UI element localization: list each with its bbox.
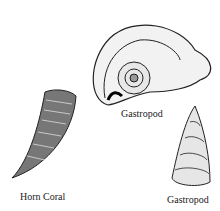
fossil-illustration: Horn Coral Gastropod Gastropod [0,0,220,211]
coiled-gastropod-drawing [93,25,210,105]
label-horn-coral: Horn Coral [20,191,65,202]
label-gastropod-coiled: Gastropod [121,108,163,119]
spired-gastropod-drawing [172,106,210,185]
horn-coral-drawing [12,90,76,178]
label-gastropod-spired: Gastropod [167,194,209,205]
fossil-drawings [0,0,220,211]
